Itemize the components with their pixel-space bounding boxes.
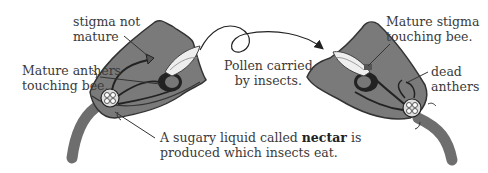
- label-line: Pollen carried: [224, 58, 313, 73]
- leader-nectar: [115, 112, 155, 138]
- label-nectar: A sugary liquid called nectar is produce…: [160, 130, 361, 160]
- label-line: touching bee.: [22, 78, 121, 93]
- left-stem: [72, 108, 95, 158]
- pollen-transfer-arrow: [200, 26, 322, 52]
- label-mature-stigma: Mature stigma touching bee.: [386, 14, 479, 44]
- label-line: dead: [431, 64, 479, 79]
- nectar-text-pre: A sugary liquid called: [160, 130, 302, 145]
- label-line: Mature stigma: [386, 14, 479, 29]
- nectar-text-post: is: [347, 130, 361, 145]
- label-line: A sugary liquid called nectar is: [160, 130, 361, 145]
- label-line: anthers: [431, 79, 479, 94]
- label-pollen-carried: Pollen carried by insects.: [224, 58, 313, 88]
- label-dead-anthers: dead anthers: [431, 64, 479, 94]
- label-line: touching bee.: [386, 29, 479, 44]
- right-ovary: [403, 99, 421, 117]
- label-line: by insects.: [224, 73, 313, 88]
- label-stigma-not-mature: stigma not mature: [73, 14, 140, 44]
- label-mature-anthers: Mature anthers touching bee.: [22, 63, 121, 93]
- pollination-diagram: stigma not mature Mature anthers touchin…: [0, 0, 488, 173]
- label-line: stigma not: [73, 14, 140, 29]
- label-line: Mature anthers: [22, 63, 121, 78]
- nectar-term: nectar: [302, 130, 347, 145]
- label-line: mature: [73, 29, 140, 44]
- label-line: produced which insects eat.: [160, 145, 361, 160]
- right-stem: [418, 118, 452, 160]
